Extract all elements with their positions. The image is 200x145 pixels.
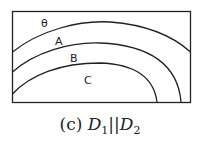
caption-d1: D [88,114,102,134]
caption-d2: D [120,114,134,134]
caption-d2-sub: 2 [133,124,140,137]
region-label-b: B [70,52,78,65]
region-label-c: C [84,74,92,87]
caption-sep: || [108,114,119,134]
bounding-box [13,12,191,103]
region-label-a: A [55,35,63,48]
caption-prefix: (c) [60,114,83,134]
region-label-theta: θ [41,17,48,30]
curve-a-b [13,43,182,102]
figure-caption: (c) D1||D2 [0,114,200,137]
curve-theta [13,22,191,52]
